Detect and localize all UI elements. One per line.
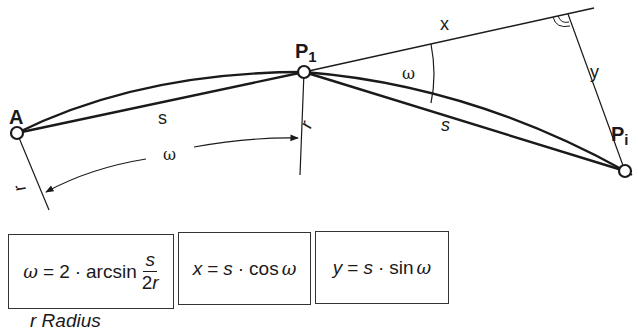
label-radius-right: r (296, 117, 316, 132)
point-pi-marker (619, 165, 631, 177)
formula-box-omega: ω = 2 · arcsin s 2r (8, 234, 174, 309)
tangent-line (304, 8, 594, 72)
curve-staking-diagram: A P1 Pi s s ω ω x y r r (0, 0, 638, 230)
chord-p1-pi (304, 72, 625, 171)
multiply-dot: · (238, 258, 244, 280)
label-tangent-x: x (440, 14, 449, 34)
multiply-dot: · (378, 257, 384, 279)
formula-x-lhs: x (193, 258, 203, 280)
multiply-dot: · (75, 261, 81, 283)
point-a-marker (11, 127, 23, 139)
fraction-numerator: s (143, 249, 157, 272)
formula-y-lhs: y (333, 257, 343, 279)
label-chord-s-left: s (158, 108, 167, 128)
formula-box-x: x = s · cos ω (178, 232, 311, 305)
formula-function: arcsin (86, 261, 137, 283)
omega-arc-left (46, 159, 146, 192)
label-a: A (9, 106, 23, 128)
label-pi: Pi (611, 123, 629, 148)
formula-var-s: s (363, 257, 373, 279)
label-p1: P1 (295, 40, 317, 65)
equals-sign: = (43, 261, 54, 283)
formula-arg-omega: ω (282, 258, 297, 279)
formula-function: sin (389, 257, 413, 279)
omega-arc-right (194, 138, 298, 147)
formula-arg-omega: ω (417, 257, 432, 278)
equals-sign: = (207, 258, 218, 280)
label-offset-y: y (590, 62, 599, 82)
label-chord-s-right: s (441, 115, 450, 135)
formula-coefficient: 2 (59, 261, 70, 283)
point-p1-marker (298, 66, 310, 78)
legend-caption: r Radius (30, 310, 101, 331)
label-omega-angle: ω (402, 64, 415, 83)
fraction-denominator: 2r (142, 272, 159, 294)
label-omega-arc: ω (163, 145, 176, 164)
formula-function: cos (249, 258, 279, 280)
formula-var-s: s (223, 258, 233, 280)
equals-sign: = (347, 257, 358, 279)
label-radius-left: r (9, 183, 30, 192)
formula-omega-lhs: ω (23, 261, 38, 282)
radius-line-a (17, 133, 49, 210)
formula-box-y: y = s · sin ω (315, 231, 449, 304)
offset-line-y (568, 14, 625, 171)
fraction: s 2r (142, 249, 159, 294)
